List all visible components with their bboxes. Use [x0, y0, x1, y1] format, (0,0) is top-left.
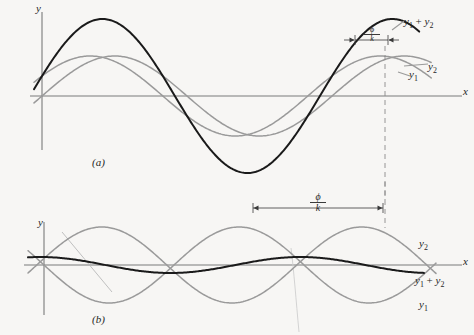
panel-b-y-axis-label: y — [38, 217, 43, 228]
panel-a-phase-denominator: k — [364, 34, 380, 43]
panel-a-label-y2: y2 — [428, 61, 437, 75]
panel-a-leader-sum — [392, 21, 404, 30]
panel-a-label: (a) — [92, 157, 105, 168]
panel-b-label: (b) — [92, 314, 105, 325]
panel-a-phase-fraction: ϕ k — [364, 26, 380, 43]
panel-b-arrowhead-left — [254, 205, 259, 210]
panel-a-label-y1: y1 — [409, 69, 418, 83]
panel-b-plot — [24, 182, 462, 332]
panel-b-phase-fraction: ϕ k — [310, 192, 326, 213]
panel-b-phase-numerator: ϕ — [310, 192, 326, 202]
scan-artifact-line — [291, 248, 299, 332]
panel-a-plot — [30, 12, 462, 200]
panel-a-phase-numerator: ϕ — [364, 26, 380, 34]
panel-b-x-axis-label: x — [463, 256, 468, 267]
panel-b-arrowhead-right — [378, 205, 383, 210]
panel-b-label-y1: y1 — [419, 299, 428, 313]
panel-b-label-sum: y1 + y2 — [415, 275, 444, 289]
panel-a-sum-text: y1 + y2 — [404, 15, 433, 27]
panel-b-label-y2: y2 — [419, 238, 428, 252]
panel-b-phase-denominator: k — [310, 202, 326, 213]
panel-a-label-sum: y1 + y2 — [404, 16, 433, 30]
panel-a-leader-y2 — [404, 64, 428, 66]
wave-superposition-figure: y x y1 + y2 y1 y2 ϕ k (a) y x y2 y1 + y2… — [0, 0, 474, 335]
panel-a-x-axis-label: x — [463, 86, 468, 97]
figure-canvas — [0, 0, 474, 335]
panel-a-y-axis-label: y — [36, 3, 41, 14]
panel-b-sum-text: y1 + y2 — [415, 274, 444, 286]
